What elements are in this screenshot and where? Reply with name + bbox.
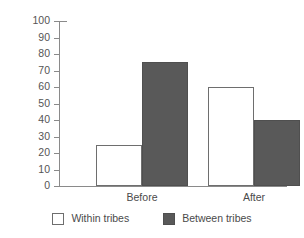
y-axis-tick-label: 50 — [38, 97, 50, 110]
chart-legend: Within tribesBetween tribes — [0, 212, 304, 225]
y-axis-tick-label: 0 — [44, 179, 50, 192]
x-axis-label-after: After — [204, 190, 304, 204]
y-axis-tick-label: 30 — [38, 130, 50, 143]
legend-swatch-icon — [52, 213, 64, 225]
y-axis-tick-mark — [54, 186, 60, 187]
y-axis-tick: 0 — [0, 186, 60, 187]
y-axis-tick-label: 90 — [38, 31, 50, 44]
y-axis-tick-label: 40 — [38, 113, 50, 126]
bar-chart: 1009080706050403020100 BeforeAfter Withi… — [0, 0, 304, 238]
bar-before-between-tribes — [142, 62, 188, 186]
bar-after-within-tribes — [208, 87, 254, 186]
y-axis-tick: 90 — [0, 38, 60, 39]
x-axis-label-before: Before — [92, 190, 192, 204]
y-axis-tick: 30 — [0, 137, 60, 138]
legend-item-between-tribes[interactable]: Between tribes — [163, 212, 251, 225]
y-axis-tick: 20 — [0, 153, 60, 154]
y-axis-tick-label: 80 — [38, 47, 50, 60]
y-axis-tick: 100 — [0, 21, 60, 22]
legend-swatch-icon — [163, 213, 175, 225]
y-axis-tick-label: 10 — [38, 163, 50, 176]
y-axis-tick-label: 100 — [32, 14, 50, 27]
legend-label: Within tribes — [71, 212, 129, 225]
y-axis-tick-label: 60 — [38, 80, 50, 93]
y-axis-tick: 60 — [0, 87, 60, 88]
y-axis-tick: 40 — [0, 120, 60, 121]
bar-before-within-tribes — [96, 145, 142, 186]
y-axis-tick-label: 20 — [38, 146, 50, 159]
legend-label: Between tribes — [182, 212, 251, 225]
y-axis-tick: 50 — [0, 104, 60, 105]
y-axis-tick: 70 — [0, 71, 60, 72]
plot-area — [60, 21, 285, 186]
legend-item-within-tribes[interactable]: Within tribes — [52, 212, 129, 225]
x-axis-line — [59, 186, 287, 187]
bar-after-between-tribes — [254, 120, 300, 186]
y-axis-tick: 10 — [0, 170, 60, 171]
y-axis-tick: 80 — [0, 54, 60, 55]
y-axis-tick-label: 70 — [38, 64, 50, 77]
